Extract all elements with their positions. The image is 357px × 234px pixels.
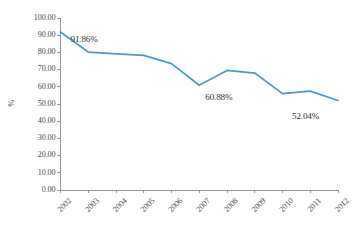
y-axis-tick-label: 50.00 xyxy=(38,100,56,108)
data-series xyxy=(61,32,339,100)
data-point-label: 52.04% xyxy=(292,112,319,121)
y-axis-tick-label: 100.00 xyxy=(34,14,56,22)
y-axis-tick-label: 40.00 xyxy=(38,117,56,125)
y-axis-tick-label: 10.00 xyxy=(38,169,56,177)
y-axis-tick-label: 90.00 xyxy=(38,31,56,39)
line-chart: 0.0010.0020.0030.0040.0050.0060.0070.008… xyxy=(0,0,357,234)
y-axis-tick-label: 70.00 xyxy=(38,65,56,73)
y-axis-ticks xyxy=(57,18,60,190)
y-axis-title: % xyxy=(8,100,16,107)
x-axis-ticks xyxy=(61,190,339,193)
y-axis-tick-label: 30.00 xyxy=(38,134,56,142)
data-point-label: 91.86% xyxy=(71,35,98,44)
y-axis-tick-label: 20.00 xyxy=(38,151,56,159)
axes xyxy=(57,18,338,193)
y-axis-tick-label: 80.00 xyxy=(38,48,56,56)
data-point-label: 60.88% xyxy=(205,93,232,102)
series-line-percentage xyxy=(61,32,339,100)
y-axis-tick-label: 60.00 xyxy=(38,83,56,91)
y-axis-tick-label: 0.00 xyxy=(42,186,56,194)
